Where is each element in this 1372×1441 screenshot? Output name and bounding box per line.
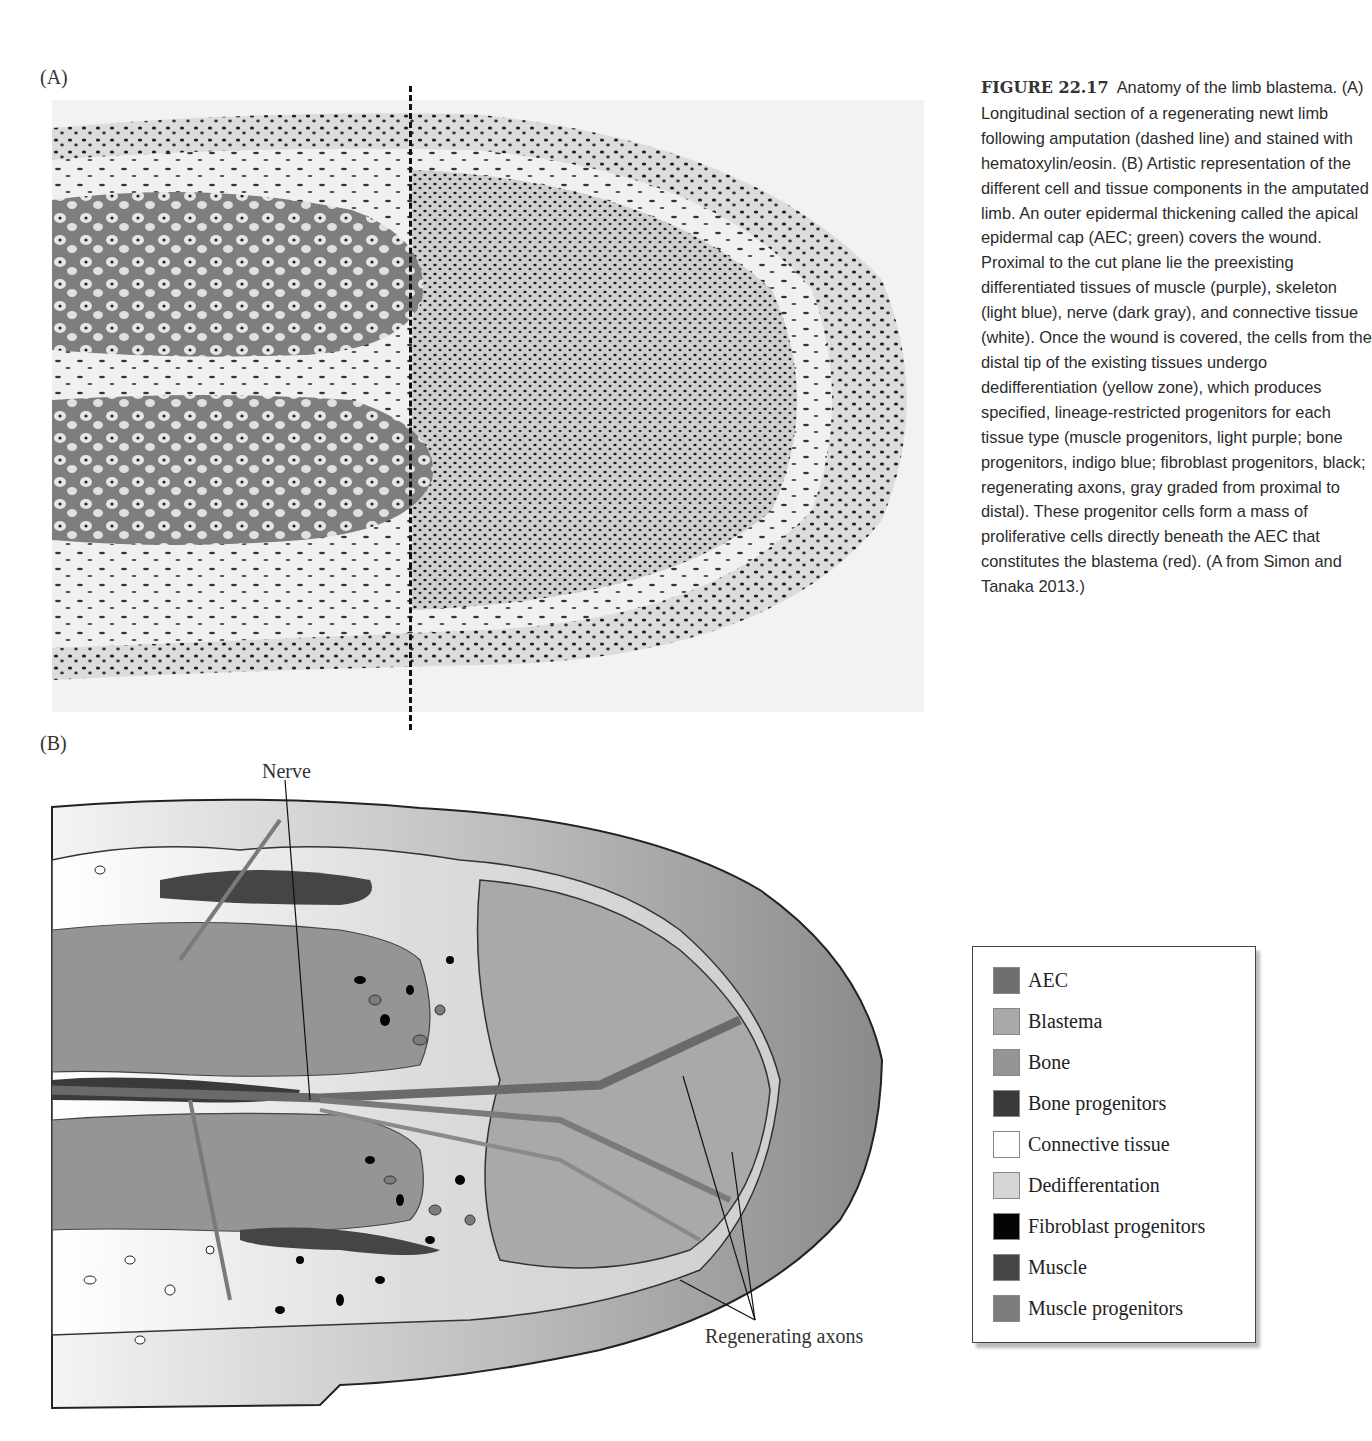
bone-lower [52, 1113, 423, 1231]
swatch-muscle [993, 1254, 1020, 1281]
swatch-dedifferentation [993, 1172, 1020, 1199]
figure-number: FIGURE 22.17 [981, 78, 1109, 97]
swatch-bone [993, 1049, 1020, 1076]
caption-text: Anatomy of the limb blastema. (A) Longit… [981, 78, 1372, 595]
micrograph-illustration [52, 100, 924, 712]
regenerating-axons-callout-label: Regenerating axons [705, 1325, 863, 1348]
legend-item-dedifferentation: Dedifferentation [993, 1170, 1160, 1200]
swatch-aec [993, 967, 1020, 994]
swatch-blastema [993, 1008, 1020, 1035]
legend-item-aec: AEC [993, 965, 1068, 995]
panel-b-label: (B) [40, 732, 67, 755]
legend-item-fibroblast-progenitors: Fibroblast progenitors [993, 1211, 1205, 1241]
legend: AEC Blastema Bone Bone progenitors Conne… [972, 946, 1256, 1343]
micrograph-longitudinal-section [52, 100, 924, 712]
amputation-dashed-line [409, 86, 412, 730]
legend-item-bone-progenitors: Bone progenitors [993, 1088, 1166, 1118]
figure-caption: FIGURE 22.17Anatomy of the limb blastema… [981, 75, 1372, 599]
legend-item-muscle: Muscle [993, 1252, 1087, 1282]
swatch-bone-progenitors [993, 1090, 1020, 1117]
swatch-connective-tissue [993, 1131, 1020, 1158]
legend-item-blastema: Blastema [993, 1006, 1102, 1036]
legend-item-connective-tissue: Connective tissue [993, 1129, 1170, 1159]
panel-a-label: (A) [40, 66, 68, 89]
swatch-muscle-progenitors [993, 1295, 1020, 1322]
legend-item-bone: Bone [993, 1047, 1070, 1077]
swatch-fibroblast-progenitors [993, 1213, 1020, 1240]
legend-item-muscle-progenitors: Muscle progenitors [993, 1293, 1183, 1323]
